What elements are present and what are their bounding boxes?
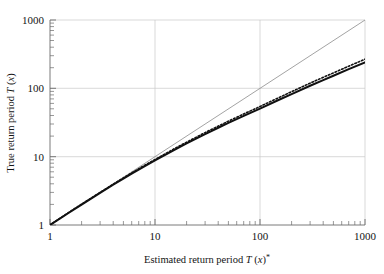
y-tick-label-10: 10 xyxy=(33,151,45,163)
x-axis-title: Estimated return period T (x)* xyxy=(144,253,270,266)
x-tick-label-1000: 1000 xyxy=(354,230,377,242)
chart-plot-area: 1 10 100 1000 1 10 100 1000 Estimated re… xyxy=(0,0,384,274)
x-tick-label-10: 10 xyxy=(150,230,162,242)
chart-figure: 1 10 100 1000 1 10 100 1000 Estimated re… xyxy=(0,0,384,274)
y-axis-title: True return period T (x) xyxy=(5,73,17,173)
x-axis-title-part-1: Estimated return period xyxy=(144,254,246,265)
x-tick-label-1: 1 xyxy=(47,230,53,242)
y-tick-label-1: 1 xyxy=(39,219,45,231)
y-tick-label-100: 100 xyxy=(28,82,45,94)
x-axis-title-star: * xyxy=(266,253,270,262)
y-tick-label-1000: 1000 xyxy=(22,14,45,26)
x-tick-label-100: 100 xyxy=(252,230,269,242)
y-axis-title-part-1: True return period xyxy=(5,93,16,172)
y-axis-title-part-3: ) xyxy=(5,73,17,77)
